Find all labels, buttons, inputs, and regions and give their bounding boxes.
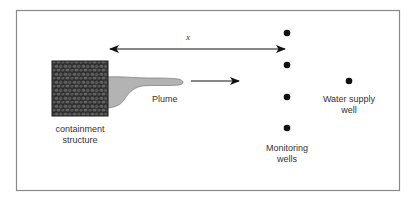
contaminant-plume-diagram: x Plume containment structure Monitoring… (0, 0, 413, 200)
containment-label-line1: containment (46, 124, 114, 135)
monitoring-well-4 (284, 125, 291, 132)
containment-label-line2: structure (46, 135, 114, 146)
containment-structure (52, 61, 108, 116)
distance-label: x (186, 32, 190, 43)
supply-label-line2: well (314, 105, 384, 116)
monitoring-label-line1: Monitoring (257, 143, 317, 154)
containment-label: containment structure (46, 124, 114, 146)
monitoring-label-line2: wells (257, 154, 317, 165)
monitoring-well-2 (284, 62, 291, 69)
water-supply-well (346, 78, 353, 85)
supply-label-line1: Water supply (314, 94, 384, 105)
water-supply-well-label: Water supply well (314, 94, 384, 116)
monitoring-well-1 (284, 30, 291, 37)
plume-label: Plume (152, 94, 178, 105)
monitoring-wells-label: Monitoring wells (257, 143, 317, 165)
monitoring-well-3 (284, 94, 291, 101)
